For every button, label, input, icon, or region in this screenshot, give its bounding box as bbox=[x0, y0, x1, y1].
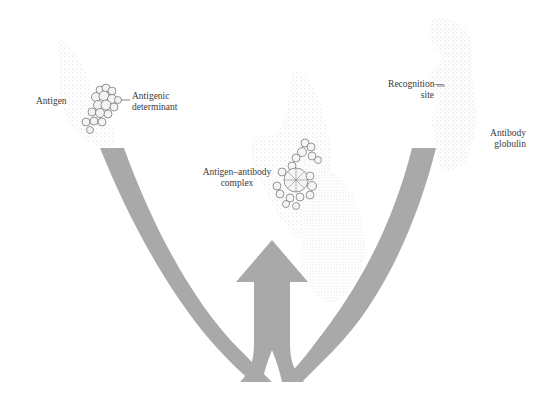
complex-label-line1: Antigen–antibody bbox=[194, 167, 280, 178]
complex-label-line2: complex bbox=[194, 178, 280, 189]
antigenic-determinant-label: Antigenic determinant bbox=[132, 91, 177, 113]
recognition-site-label-line2: site bbox=[378, 90, 444, 101]
diagram-canvas bbox=[0, 0, 541, 400]
recognition-site-label-line1: Recognition— bbox=[378, 79, 444, 90]
antibody-globulin-label-line1: Antibody bbox=[470, 128, 526, 139]
antibody-globulin-label: Antibody globulin bbox=[470, 128, 526, 150]
antigenic-determinant-label-line2: determinant bbox=[132, 102, 177, 113]
antibody-globulin-label-line2: globulin bbox=[470, 139, 526, 150]
antigenic-determinant-label-line1: Antigenic bbox=[132, 91, 177, 102]
complex-label: Antigen–antibody complex bbox=[194, 167, 280, 189]
recognition-site-label: Recognition— site bbox=[378, 79, 444, 101]
antigen-label: Antigen bbox=[36, 96, 67, 107]
